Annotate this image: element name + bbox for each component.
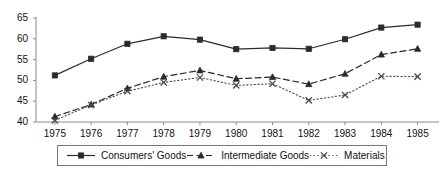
y-tick-label: 40 [4,117,28,127]
x-tick-label: 1978 [144,129,184,139]
axes [33,17,439,125]
x-tick-label: 1981 [252,129,292,139]
series-2 [52,45,421,119]
legend-label: Intermediate Goods [221,150,309,161]
x-tick-label: 1982 [289,129,329,139]
legend-cross-icon [309,150,339,161]
legend-item-2[interactable]: Intermediate Goods [186,150,309,161]
legend-label: Materials [344,150,385,161]
x-tick-label: 1984 [361,129,401,139]
series-layer [52,22,421,123]
y-tick-label: 60 [4,34,28,44]
x-tick-label: 1980 [216,129,256,139]
line-chart: 656055504540 197519761977197819791980198… [0,0,443,172]
x-tick-label: 1976 [71,129,111,139]
series-1 [52,22,420,78]
x-tick-label: 1979 [180,129,220,139]
legend-label: Consumers' Goods [101,150,186,161]
y-tick-label: 50 [4,75,28,85]
plot-area [0,0,443,140]
x-tick-label: 1985 [398,129,438,139]
x-tick-label: 1983 [325,129,365,139]
legend-item-1[interactable]: Consumers' Goods [66,150,186,161]
x-tick-label: 1977 [107,129,147,139]
x-tick-label: 1975 [35,129,75,139]
chart-legend: Consumers' GoodsIntermediate GoodsMateri… [57,145,387,166]
legend-triangle-icon [186,150,216,161]
legend-item-3[interactable]: Materials [309,150,385,161]
legend-square-icon [66,150,96,161]
y-tick-label: 55 [4,55,28,65]
y-tick-label: 65 [4,13,28,23]
y-tick-label: 45 [4,96,28,106]
